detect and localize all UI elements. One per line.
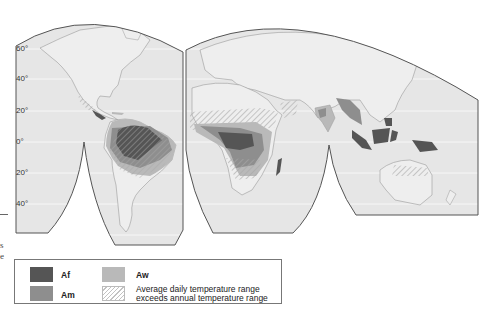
world-climate-map [0,0,492,255]
margin-rule [0,214,8,215]
latitude-label: 60° [16,45,28,53]
legend-label-aw: Aw [136,270,149,280]
map-legend: Af Am Aw Average daily temperature range… [14,259,282,304]
latitude-label: 0° [16,138,24,146]
latitude-label: 40° [16,75,28,83]
margin-text-fragment: e [0,251,4,261]
legend-swatch-hatch [102,286,125,301]
latitude-label: 40° [16,200,28,208]
margin-text-fragment: s [0,240,4,250]
legend-swatch-aw [102,267,125,282]
legend-hatch-line2: exceeds annual temperature range [136,294,268,303]
legend-swatch-af [30,267,53,282]
latitude-label: 20° [16,169,28,177]
legend-label-am: Am [61,290,75,300]
latitude-label: 20° [16,107,28,115]
legend-label-af: Af [61,270,70,280]
eastern-hemisphere-lobe [180,0,492,255]
legend-swatch-am [30,286,53,301]
legend-label-hatch: Average daily temperature range exceeds … [136,285,268,303]
